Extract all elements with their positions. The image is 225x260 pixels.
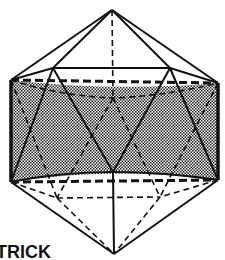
icosahedron-diagram [0,0,225,260]
caption-label: TRICK [0,243,51,260]
